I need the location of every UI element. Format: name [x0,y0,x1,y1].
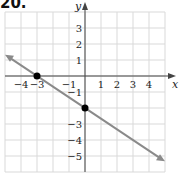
y-axis-label: y [74,0,82,13]
x-tick-label: −4 [14,79,29,90]
x-tick-label: 1 [98,79,104,90]
y-tick-label: 3 [76,23,82,34]
y-tick-label: 1 [76,55,82,66]
y-axis-arrow-icon [82,2,88,10]
plotted-point [82,105,89,112]
coordinate-graph: xy−4−3−11234321−1−3−4−5 [0,0,179,174]
x-tick-label: 2 [114,79,120,90]
y-tick-label: −4 [67,135,82,146]
y-tick-label: −1 [67,87,82,98]
y-tick-label: −5 [67,151,82,162]
x-tick-label: 3 [130,79,136,90]
y-tick-label: 2 [76,39,82,50]
x-tick-label: −3 [30,79,45,90]
x-axis-label: x [172,78,179,91]
y-tick-label: −3 [67,119,82,130]
plotted-point [34,73,41,80]
x-tick-label: 4 [146,79,152,90]
